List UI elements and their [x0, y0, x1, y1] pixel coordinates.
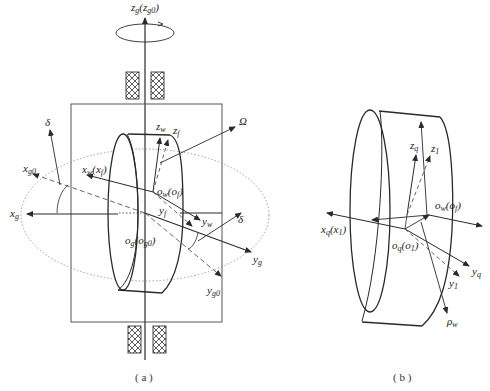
label-y1: y1 [449, 278, 458, 291]
label-omega: Ω [239, 116, 247, 127]
caption-b: ( b ) [393, 371, 411, 383]
label-xw: xw(xf) [82, 164, 107, 177]
zq-axis [407, 155, 416, 215]
label-yf: yf [159, 205, 166, 218]
label-xg0: xg0 [23, 163, 36, 176]
panel-b [327, 110, 482, 326]
bearing-bottom-right-icon [153, 326, 166, 353]
label-yw: yw [202, 216, 212, 229]
label-yq: yq [472, 266, 481, 279]
label-rho-w: ρw [447, 316, 458, 329]
bearing-bottom-left-icon [128, 326, 141, 353]
bearing-top-left-icon [126, 72, 139, 99]
label-og: og(og0) [125, 235, 155, 248]
label-zq: zq [410, 140, 418, 153]
label-delta-right: δ [238, 214, 243, 225]
label-oq: oq(o1) [392, 240, 418, 253]
label-yg: yg [253, 254, 262, 267]
label-yg0: yg0 [207, 285, 220, 298]
caption-a: ( a ) [135, 371, 153, 383]
label-xg: xg [10, 208, 19, 221]
bearing-top-right-icon [151, 72, 164, 99]
label-xq: xq(x1) [321, 224, 346, 237]
label-delta-left: δ [45, 117, 50, 128]
label-ow: ow(of) [157, 186, 183, 199]
label-zg: zg(zg0) [131, 2, 159, 15]
label-zf: zf [173, 125, 180, 138]
xw-axis-b [429, 215, 482, 226]
gyro-coordinate-diagram: zg(zg0) δ xg0 xg xw(xf) zw zf Ω ow(of) y… [0, 0, 490, 391]
rho-w-vector [421, 222, 447, 313]
zw-axis [153, 138, 160, 192]
label-zw: zw [156, 121, 166, 134]
label-z1: z1 [431, 143, 439, 156]
diagram-canvas [0, 0, 490, 391]
panel-a [21, 18, 269, 360]
omega-vector [160, 127, 235, 163]
label-ow-b: ow(of) [435, 200, 461, 213]
delta-left-axis [50, 130, 60, 185]
